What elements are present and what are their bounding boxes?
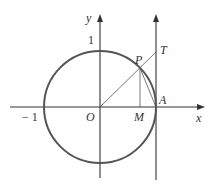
label-x: x [195, 111, 202, 125]
unit-circle-diagram: y 1 T P A − 1 O M x [0, 0, 208, 187]
label-y: y [85, 11, 92, 25]
segment-PA [140, 68, 156, 107]
label-T: T [160, 43, 168, 57]
y-axis [97, 14, 103, 178]
label-M: M [133, 110, 145, 124]
ray-OT [100, 52, 156, 107]
tangent-arrow-icon [153, 14, 159, 22]
label-O: O [86, 110, 95, 124]
y-axis-arrow-icon [97, 14, 103, 22]
label-neg-one: − 1 [22, 110, 38, 124]
label-A: A [158, 93, 167, 107]
x-axis-arrow-icon [197, 104, 205, 110]
label-one: 1 [88, 33, 94, 47]
x-axis [10, 104, 205, 110]
label-P: P [134, 53, 143, 67]
